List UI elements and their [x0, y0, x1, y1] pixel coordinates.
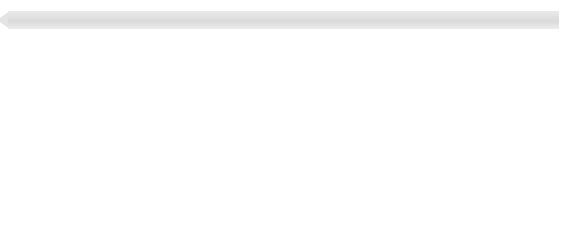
page-title — [0, 11, 567, 29]
band-stack — [0, 104, 567, 218]
title-band — [0, 11, 567, 29]
timeline-chart — [0, 0, 567, 249]
top-ruler — [8, 94, 559, 103]
year-axis-labels — [0, 229, 567, 243]
bottom-axis — [8, 219, 559, 227]
